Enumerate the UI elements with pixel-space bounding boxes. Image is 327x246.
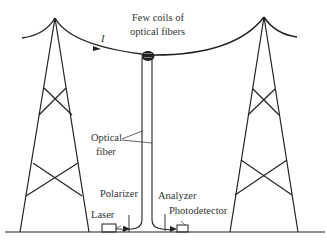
optical-fiber [122, 58, 172, 230]
photodetector-box [177, 225, 188, 232]
detector-arrow-icon [170, 226, 177, 232]
photodetector-label: Photodetector [169, 205, 227, 217]
current-label: I [101, 33, 105, 45]
analyzer-label: Analyzer [158, 190, 196, 202]
fiber-label-line1: Optical [91, 132, 122, 144]
fiber-coil-icon [142, 51, 155, 61]
coil-label-line2: optical fibers [130, 26, 185, 38]
fiber-label-line2: fiber [96, 146, 116, 158]
laser-label: Laser [91, 209, 114, 221]
right-tower [230, 17, 298, 232]
coil-label-line1: Few coils of [132, 12, 184, 24]
current-arrow-icon [93, 46, 101, 51]
polarizer-label: Polarizer [100, 188, 138, 200]
laser-box [102, 224, 116, 232]
left-tower [20, 18, 89, 232]
